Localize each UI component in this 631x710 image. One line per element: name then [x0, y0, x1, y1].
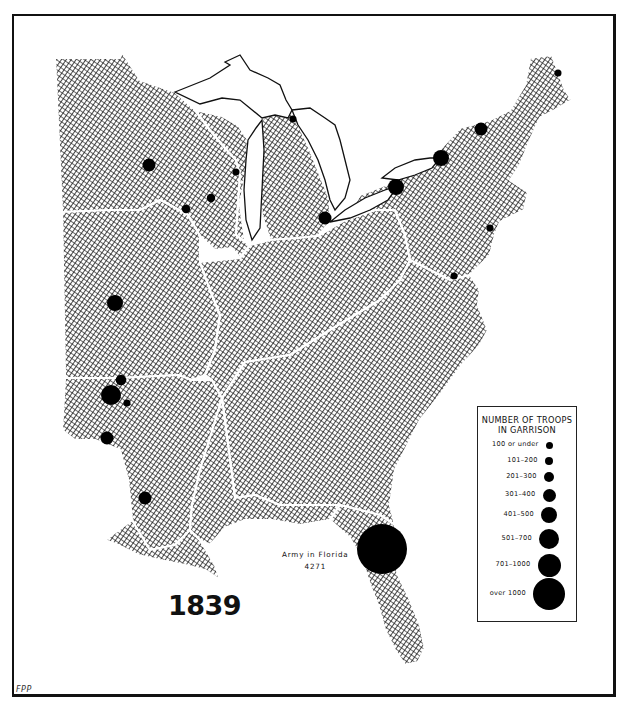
florida-army-label: Army in Florida 4271 — [282, 549, 349, 573]
legend-title-line2: IN GARRISON — [478, 425, 576, 435]
garrison-marker — [107, 295, 123, 311]
garrison-marker — [182, 205, 190, 213]
legend-label: 100 or under — [492, 440, 538, 448]
florida-army-label-text: Army in Florida — [282, 549, 349, 561]
garrison-marker — [555, 70, 562, 77]
legend: NUMBER OF TROOPS IN GARRISON 100 or unde… — [477, 406, 577, 622]
legend-symbol — [533, 578, 565, 610]
legend-symbol — [544, 472, 555, 483]
legend-symbol — [541, 507, 557, 523]
garrison-marker — [101, 385, 121, 405]
garrison-marker — [139, 492, 152, 505]
legend-symbol — [545, 457, 553, 465]
garrison-marker — [475, 123, 488, 136]
legend-label: over 1000 — [490, 589, 526, 597]
garrison-marker — [451, 273, 458, 280]
map-credit: FPP — [16, 685, 32, 694]
legend-symbol — [538, 554, 561, 577]
legend-label: 301–400 — [505, 490, 536, 498]
garrison-marker — [233, 169, 240, 176]
garrison-marker — [357, 524, 407, 574]
garrison-marker — [101, 432, 114, 445]
legend-symbol — [543, 489, 556, 502]
legend-label: 401–500 — [503, 510, 534, 518]
garrison-marker — [388, 179, 404, 195]
florida-army-troop-count: 4271 — [282, 561, 349, 573]
map-year-title: 1839 — [168, 590, 241, 621]
legend-symbol — [546, 442, 553, 449]
garrison-marker — [319, 212, 332, 225]
garrison-marker — [290, 116, 297, 123]
garrison-marker — [116, 375, 127, 386]
legend-title: NUMBER OF TROOPS IN GARRISON — [478, 415, 576, 435]
legend-title-line1: NUMBER OF TROOPS — [478, 415, 576, 425]
legend-label: 501–700 — [501, 534, 532, 542]
garrison-marker — [433, 150, 449, 166]
legend-label: 201–300 — [506, 472, 537, 480]
legend-label: 101–200 — [507, 456, 538, 464]
garrison-marker — [143, 159, 156, 172]
legend-label: 701–1000 — [495, 560, 530, 568]
garrison-marker — [487, 225, 494, 232]
garrison-marker — [124, 400, 131, 407]
garrison-marker — [207, 194, 215, 202]
legend-symbol — [539, 529, 559, 549]
